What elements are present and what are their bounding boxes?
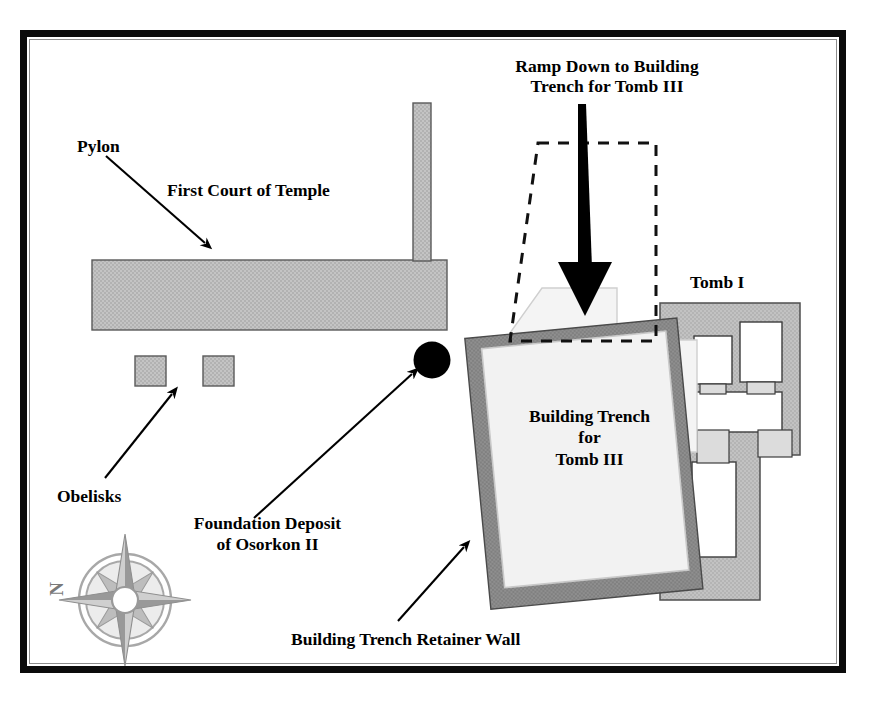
label-retainer-wall: Building Trench Retainer Wall xyxy=(291,629,520,649)
site-plan-figure: Ramp Down to Building Trench for Tomb II… xyxy=(0,0,877,704)
compass-hub xyxy=(112,587,138,613)
tomb-passage-upper-right xyxy=(747,382,775,394)
ramp-arrow xyxy=(558,104,612,316)
foundation-deposit-marker xyxy=(414,342,451,379)
tomb-passage-right-step xyxy=(758,430,792,457)
foundation-deposit-leader-arrow xyxy=(254,374,412,518)
tomb-passage-upper-left xyxy=(700,384,726,394)
label-tomb-i: Tomb I xyxy=(690,272,744,292)
label-north: N xyxy=(46,582,68,596)
retainer-wall-leader-arrow xyxy=(398,547,464,621)
label-ramp-down: Ramp Down to Building Trench for Tomb II… xyxy=(477,56,737,97)
site-plan-artwork xyxy=(0,0,877,704)
obelisk-right xyxy=(203,356,234,386)
label-obelisks: Obelisks xyxy=(57,486,121,506)
tomb-chamber-upper-left xyxy=(694,336,732,384)
obelisks-leader-arrow xyxy=(105,394,172,478)
obelisk-left xyxy=(135,356,166,386)
label-building-trench: Building Trench for Tomb III xyxy=(497,406,682,470)
label-first-court: First Court of Temple xyxy=(167,180,330,200)
pylon-masonry xyxy=(92,260,447,330)
tomb-passage-lower xyxy=(697,430,729,463)
temple-wall-vertical xyxy=(413,103,431,261)
label-pylon: Pylon xyxy=(77,136,120,156)
tomb-chamber-central-hall xyxy=(690,392,782,432)
label-foundation-deposit: Foundation Deposit of Osorkon II xyxy=(150,513,385,556)
tomb-chamber-upper-right xyxy=(740,322,782,382)
